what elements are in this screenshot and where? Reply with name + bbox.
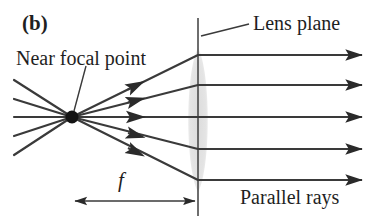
- ray-direction-arrow: [128, 100, 137, 103]
- panel-label: (b): [22, 13, 48, 34]
- parallel-rays-label: Parallel rays: [240, 187, 339, 207]
- incoming-ray: [14, 80, 72, 117]
- parallel-ray-group: [198, 55, 362, 180]
- lens-plane-label: Lens plane: [253, 13, 340, 33]
- focal-length-label: f: [118, 170, 124, 191]
- incoming-ray: [14, 117, 72, 136]
- diverging-ray-arrowheads: [128, 85, 137, 153]
- near-focal-point-leader-line: [74, 66, 86, 111]
- lens-plane-leader-line: [201, 24, 249, 36]
- focal-point-dot: [66, 111, 79, 124]
- incoming-ray: [14, 99, 72, 117]
- incoming-ray: [14, 117, 72, 155]
- incoming-ray-group: [14, 80, 72, 155]
- lens-optics-figure: (b) Near focal point Lens plane Parallel…: [0, 0, 379, 222]
- diverging-ray: [72, 117, 198, 180]
- diverging-ray: [72, 117, 198, 149]
- near-focal-point-label: Near focal point: [16, 48, 146, 68]
- ray-direction-arrow: [128, 85, 137, 90]
